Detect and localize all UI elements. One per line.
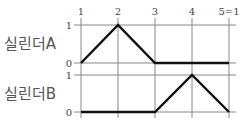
y-label-high: 1: [66, 20, 72, 31]
grid-lines: [81, 18, 229, 118]
step-label: 5=1: [218, 6, 239, 17]
cylinder-row: 실린더B10: [4, 70, 236, 118]
step-label: 3: [152, 6, 158, 17]
step-labels: 12345=1: [78, 6, 240, 17]
step-label: 2: [115, 6, 121, 17]
y-label-high: 1: [66, 70, 72, 81]
cylinder-label: 실린더B: [4, 85, 56, 103]
y-label-low: 0: [66, 107, 72, 118]
cylinder-rows: 실린더A10실린더B10: [4, 20, 236, 118]
cylinder-label: 실린더A: [4, 35, 57, 53]
step-label: 4: [189, 6, 195, 17]
displacement-step-diagram: 12345=1 실린더A10실린더B10: [0, 0, 251, 127]
cylinder-row: 실린더A10: [4, 20, 236, 69]
step-label: 1: [78, 6, 84, 17]
y-label-low: 0: [66, 58, 72, 69]
